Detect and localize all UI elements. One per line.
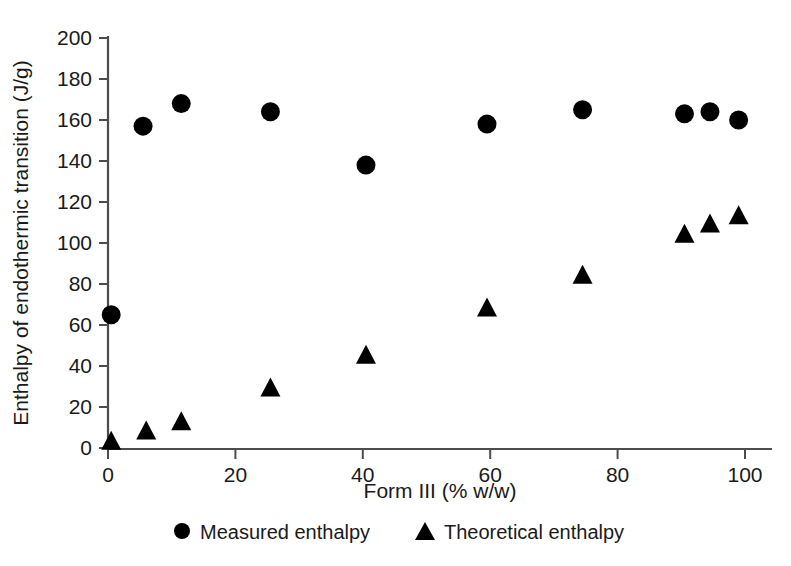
legend-label-theoretical: Theoretical enthalpy (444, 521, 624, 543)
y-tick-label: 0 (80, 436, 92, 459)
data-point-circle (700, 102, 719, 121)
data-point-triangle (700, 214, 720, 233)
data-point-circle (478, 115, 497, 134)
y-axis-tick-labels: 020406080100120140160180200 (57, 26, 92, 459)
chart-container: 020406080100120140160180200 020406080100… (0, 0, 791, 566)
y-tick-label: 120 (57, 190, 92, 213)
y-tick-label: 60 (69, 313, 92, 336)
chart-legend: Measured enthalpy Theoretical enthalpy (174, 521, 624, 543)
data-point-triangle (356, 345, 376, 364)
x-tick-label: 80 (606, 463, 629, 486)
data-point-circle (102, 305, 121, 324)
series-theoretical-enthalpy (101, 205, 748, 449)
y-tick-label: 180 (57, 67, 92, 90)
legend-label-measured: Measured enthalpy (200, 521, 370, 543)
data-point-circle (134, 117, 153, 136)
data-point-triangle (171, 411, 191, 430)
data-point-triangle (573, 265, 593, 284)
scatter-plot: 020406080100120140160180200 020406080100… (0, 0, 791, 566)
data-point-circle (356, 156, 375, 175)
y-tick-label: 40 (69, 354, 92, 377)
data-point-circle (675, 104, 694, 123)
data-point-circle (729, 111, 748, 130)
x-tick-label: 100 (727, 463, 762, 486)
y-tick-label: 200 (57, 26, 92, 49)
y-axis-title: Enthalpy of endothermic transition (J/g) (9, 60, 32, 425)
x-tick-label: 0 (102, 463, 114, 486)
legend-circle-marker (174, 523, 190, 539)
data-point-triangle (674, 224, 694, 243)
y-axis-ticks (99, 38, 108, 448)
data-point-triangle (101, 431, 121, 450)
data-point-triangle (477, 298, 497, 317)
y-tick-label: 100 (57, 231, 92, 254)
x-tick-label: 20 (224, 463, 247, 486)
y-tick-label: 80 (69, 272, 92, 295)
legend-triangle-marker (415, 522, 435, 540)
y-tick-label: 160 (57, 108, 92, 131)
series-measured-enthalpy (102, 94, 748, 324)
y-tick-label: 20 (69, 395, 92, 418)
y-tick-label: 140 (57, 149, 92, 172)
data-point-circle (261, 102, 280, 121)
x-axis-title: Form III (% w/w) (364, 479, 517, 502)
data-point-triangle (729, 205, 749, 224)
data-point-circle (172, 94, 191, 113)
data-point-triangle (260, 378, 280, 397)
x-axis-ticks (108, 449, 745, 459)
data-point-triangle (136, 421, 156, 440)
data-point-circle (573, 100, 592, 119)
